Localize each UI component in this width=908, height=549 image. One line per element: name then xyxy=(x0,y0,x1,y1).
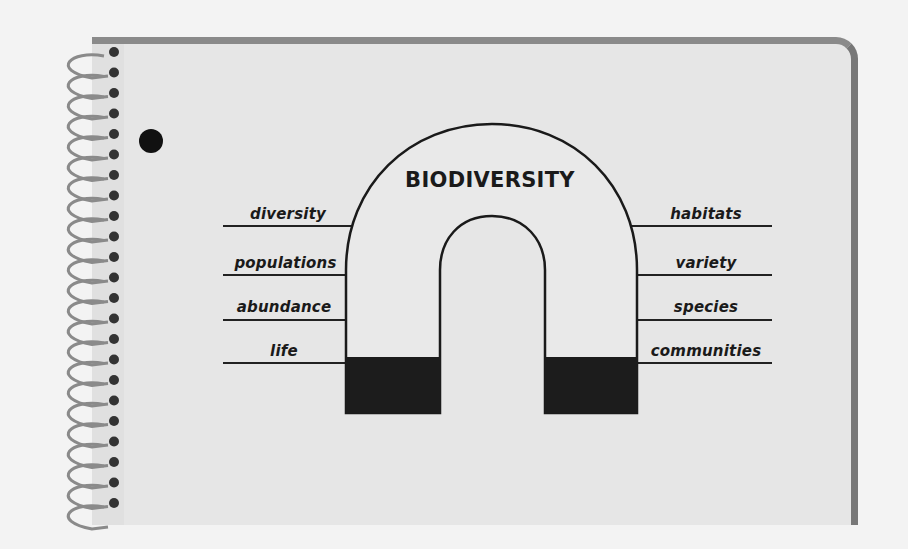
left-term-diversity: diversity xyxy=(223,205,353,223)
left-term-populations: populations xyxy=(223,254,348,272)
right-term-species: species xyxy=(640,298,772,316)
binder-hole-icon xyxy=(139,129,163,153)
magnet-right-pole xyxy=(545,357,638,413)
left-term-life: life xyxy=(223,342,345,360)
right-term-habitats: habitats xyxy=(640,205,772,223)
diagram-title: BIODIVERSITY xyxy=(400,168,580,192)
right-term-communities: communities xyxy=(640,342,772,360)
spiral-binding-icon xyxy=(68,47,119,529)
notebook-illustration: BIODIVERSITY diversity populations abund… xyxy=(0,0,908,549)
right-term-variety: variety xyxy=(640,254,772,272)
left-term-abundance: abundance xyxy=(223,298,345,316)
diagram-graphics xyxy=(0,0,908,549)
magnet-left-pole xyxy=(346,357,441,413)
